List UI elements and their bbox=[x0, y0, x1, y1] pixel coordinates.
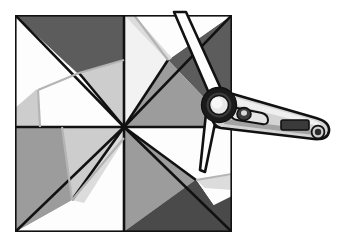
display[interactable] bbox=[281, 120, 309, 130]
hub-center-highlight bbox=[212, 98, 223, 109]
power-button-center bbox=[315, 129, 321, 135]
illustration-canvas: A square divided into four quadrants for… bbox=[0, 0, 343, 242]
lock-knob-center bbox=[241, 110, 247, 116]
pattern-and-tool-artwork bbox=[0, 0, 343, 242]
